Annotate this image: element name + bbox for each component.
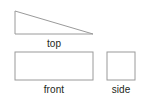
side-view-square — [104, 49, 138, 83]
top-view-label: top — [28, 38, 80, 49]
front-view-label: front — [28, 84, 80, 95]
top-view-triangle — [12, 8, 96, 37]
side-view-label: side — [104, 84, 138, 95]
rectangle-shape — [15, 52, 93, 80]
orthographic-views-figure: top front side — [0, 0, 145, 102]
front-view-rectangle — [12, 49, 96, 83]
triangle-shape — [15, 11, 93, 34]
square-shape — [107, 52, 135, 80]
